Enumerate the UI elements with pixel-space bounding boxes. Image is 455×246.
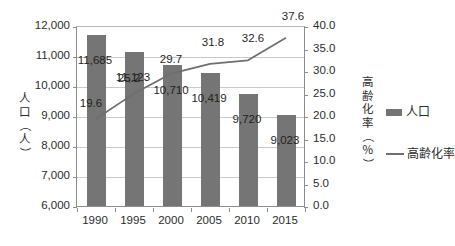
y2-tick-label: 30.0 (313, 65, 359, 77)
legend-bar-swatch-icon (386, 109, 402, 116)
axis-title-char: （ (361, 129, 375, 144)
axis-title-char: 化 (360, 103, 375, 117)
y2-tick-label: 35.0 (313, 43, 359, 55)
bar-data-label: 9,023 (257, 135, 313, 147)
x-tick-mark (229, 208, 230, 212)
y-tick-label: 10,000 (8, 80, 70, 92)
y2-tick-label: 0.0 (313, 200, 359, 212)
legend-label-population: 人口 (406, 106, 430, 118)
y-axis-title-right: 高齢化率（％） (360, 76, 375, 171)
y2-tick-label: 10.0 (313, 155, 359, 167)
legend-item-population[interactable]: 人口 (386, 102, 455, 122)
bar-data-label: 9,720 (219, 114, 275, 126)
line-data-label: 25.2 (109, 73, 149, 85)
y2-tick-label: 15.0 (313, 133, 359, 145)
legend-item-aging-rate[interactable]: 高齢化率 (386, 144, 455, 164)
y2-tick-label: 25.0 (313, 88, 359, 100)
y-tick-label: 12,000 (8, 20, 70, 32)
x-tick-mark (305, 208, 306, 212)
y-tick-label: 11,000 (8, 50, 70, 62)
y-tick-label: 6,000 (8, 200, 70, 212)
y-tick-label: 9,000 (8, 110, 70, 122)
line-data-label: 32.6 (233, 33, 273, 45)
axis-title-char: 高 (360, 76, 375, 90)
x-tick-mark (115, 208, 116, 212)
axis-title-char: ） (361, 156, 375, 171)
line-data-label: 19.6 (71, 98, 111, 110)
bar-data-label: 10,419 (181, 93, 237, 105)
y-tick-label: 7,000 (8, 170, 70, 182)
axis-title-char: 人 (17, 92, 32, 106)
x-tick-label: 2015 (263, 214, 307, 226)
y2-tick-label: 40.0 (313, 20, 359, 32)
bar-data-label: 11,685 (67, 55, 123, 67)
y-tick-label: 8,000 (8, 140, 70, 152)
axis-title-char: ％ (360, 144, 375, 158)
y2-tick-label: 5.0 (313, 178, 359, 190)
axis-title-char: 率 (360, 117, 375, 131)
line-data-label: 37.6 (273, 11, 313, 23)
x-tick-mark (77, 208, 78, 212)
x-tick-mark (191, 208, 192, 212)
axis-title-char: 齢 (360, 90, 375, 104)
x-tick-mark (153, 208, 154, 212)
y2-tick-label: 20.0 (313, 110, 359, 122)
line-data-label: 29.7 (151, 54, 191, 66)
legend-line-swatch-icon (386, 153, 404, 155)
x-tick-mark (267, 208, 268, 212)
legend: 人口 高齢化率 (386, 102, 455, 164)
legend-label-aging-rate: 高齢化率 (407, 148, 455, 160)
line-data-label: 31.8 (193, 37, 233, 49)
